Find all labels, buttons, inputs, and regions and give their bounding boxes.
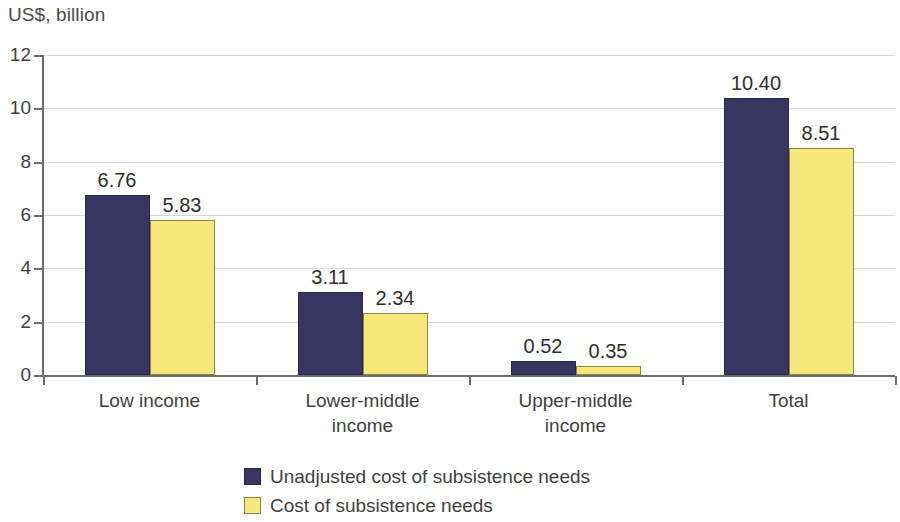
legend-swatch-icon [244, 468, 261, 485]
bar-chart: US$, billion 024681012 6.765.833.112.340… [0, 0, 900, 522]
legend-label: Cost of subsistence needs [270, 495, 493, 517]
bar[interactable] [85, 195, 150, 375]
y-axis-tick [34, 215, 43, 217]
legend-item[interactable]: Unadjusted cost of subsistence needs [244, 462, 656, 491]
bar[interactable] [511, 361, 576, 375]
y-axis-tick [34, 268, 43, 270]
bar-group: 6.765.83 [43, 55, 256, 375]
bar[interactable] [724, 98, 789, 375]
bar-value-label: 10.40 [731, 72, 781, 95]
bar[interactable] [150, 220, 215, 375]
bar-groups: 6.765.833.112.340.520.3510.408.51 [43, 55, 895, 375]
y-axis-tick-label: 6 [3, 204, 31, 226]
bar-value-label: 0.35 [589, 340, 628, 363]
y-axis-tick-label: 0 [3, 364, 31, 386]
y-axis-tick-label: 10 [3, 97, 31, 119]
bar-group: 3.112.34 [256, 55, 469, 375]
bar-value-label: 3.11 [311, 266, 348, 289]
bar-value-label: 6.76 [98, 169, 137, 192]
legend: Unadjusted cost of subsistence needsCost… [0, 462, 900, 520]
bar-value-label: 0.52 [524, 335, 563, 358]
x-axis-category-label: Lower-middle income [305, 388, 419, 438]
bar-group: 0.520.35 [469, 55, 682, 375]
legend-swatch-icon [244, 497, 261, 514]
legend-label: Unadjusted cost of subsistence needs [270, 466, 590, 488]
bar[interactable] [298, 292, 363, 375]
y-axis-tick-label: 2 [3, 311, 31, 333]
x-axis-tick [256, 376, 258, 385]
bar[interactable] [576, 366, 641, 375]
x-axis-tick [469, 376, 471, 385]
legend-item[interactable]: Cost of subsistence needs [244, 491, 656, 520]
y-axis-tick-label: 4 [3, 257, 31, 279]
y-axis-tick [34, 108, 43, 110]
bar[interactable] [363, 313, 428, 375]
y-axis-tick [34, 322, 43, 324]
x-axis-tick [895, 376, 897, 385]
bar-value-label: 8.51 [802, 122, 841, 145]
y-axis-tick [34, 375, 43, 377]
y-axis-tick [34, 55, 43, 57]
x-axis-category-label: Low income [99, 388, 200, 413]
y-axis-tick [34, 162, 43, 164]
x-axis-category-label: Total [768, 388, 808, 413]
bar-value-label: 5.83 [163, 194, 202, 217]
bar[interactable] [789, 148, 854, 375]
y-axis-tick-label: 8 [3, 151, 31, 173]
bar-group: 10.408.51 [682, 55, 895, 375]
x-axis-category-label: Upper-middle income [518, 388, 632, 438]
x-axis-tick [682, 376, 684, 385]
y-axis-labels: 024681012 [0, 0, 31, 522]
bar-value-label: 2.34 [376, 287, 415, 310]
y-axis-tick-label: 12 [3, 44, 31, 66]
x-axis-tick [43, 376, 45, 385]
